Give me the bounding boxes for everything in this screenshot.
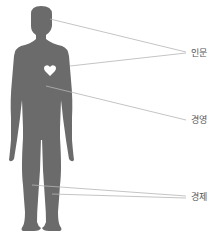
- human-silhouette: [9, 6, 74, 231]
- label-management: 경영: [191, 115, 207, 125]
- label-economics: 경제: [191, 192, 207, 202]
- label-humanities: 인문: [191, 48, 207, 58]
- line-heart-to-label1: [70, 53, 186, 66]
- line-head-to-label1: [50, 19, 186, 52]
- human-figure-diagram: [0, 0, 216, 239]
